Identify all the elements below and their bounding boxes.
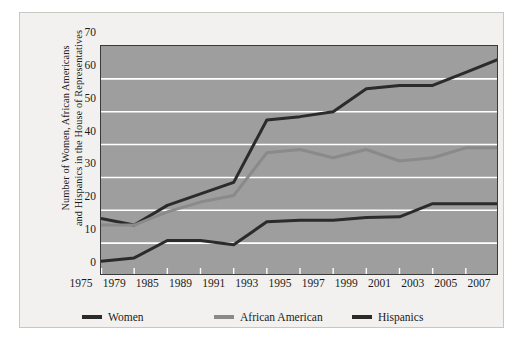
x-tick-label: 1997 <box>295 277 331 290</box>
legend-item[interactable]: Women <box>82 309 143 325</box>
chart-page: Number of Women, African Americans and H… <box>0 0 523 340</box>
y-tick-label: 40 <box>70 126 96 137</box>
series-line <box>101 59 498 225</box>
x-tick-label: 2005 <box>428 277 464 290</box>
y-tick-label: 0 <box>70 257 96 268</box>
legend-label: Women <box>108 311 143 324</box>
y-axis-tick-labels: 010203040506070 <box>68 13 96 313</box>
x-tick-label: 2001 <box>362 277 398 290</box>
x-tick-label: 1989 <box>163 277 199 290</box>
legend-swatch-icon <box>352 315 372 319</box>
legend-swatch-icon <box>82 315 102 319</box>
y-tick-label: 50 <box>70 93 96 104</box>
legend-swatch-icon <box>214 315 234 319</box>
y-tick-label: 60 <box>70 60 96 71</box>
chart-lines <box>101 46 498 275</box>
y-tick-label: 70 <box>70 27 96 38</box>
series-line <box>101 148 498 225</box>
x-tick-label: 2003 <box>395 277 431 290</box>
x-tick-label: 1993 <box>229 277 265 290</box>
x-axis-tick-labels: 1975197919851989199119931995199719992001… <box>20 277 523 295</box>
x-tick-label: 1991 <box>196 277 232 290</box>
x-tick-label: 1999 <box>328 277 364 290</box>
legend-item[interactable]: Hispanics <box>352 309 423 325</box>
y-tick-label: 20 <box>70 191 96 202</box>
x-tick-label: 1975 <box>63 277 99 290</box>
y-tick-label: 30 <box>70 158 96 169</box>
series-line <box>101 204 498 262</box>
y-tick-label: 10 <box>70 224 96 235</box>
x-tick-label: 1995 <box>262 277 298 290</box>
x-tick-label: 2007 <box>461 277 497 290</box>
x-tick-label: 1985 <box>129 277 165 290</box>
plot-area <box>100 45 498 275</box>
x-tick-label: 1979 <box>96 277 132 290</box>
figure-frame: Number of Women, African Americans and H… <box>19 12 504 328</box>
legend-item[interactable]: African American <box>214 309 323 325</box>
chart-legend: WomenAfrican AmericanHispanics <box>82 309 482 329</box>
legend-label: Hispanics <box>378 311 423 324</box>
legend-label: African American <box>240 311 323 324</box>
